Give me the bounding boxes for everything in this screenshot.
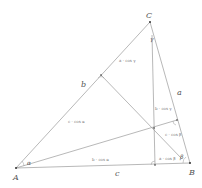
foot-ac-point (100, 74, 102, 76)
foot-ab-point (154, 164, 156, 166)
segment-a-cos-beta-label: a · cos β (159, 156, 176, 161)
angle-arc-alpha (22, 161, 24, 166)
angle-alpha-label: α (27, 159, 31, 166)
side-a-label: a (177, 88, 182, 97)
segment-a-cos-gamma-label: a · cos γ (119, 58, 136, 63)
triangle-diagram: A B C a b c α β γ a · cos γ b · cos γ c … (0, 0, 202, 188)
altitude-from-b (101, 75, 182, 159)
vertex-c-point (149, 21, 151, 23)
vertex-a-point (15, 167, 17, 169)
side-b-label: b (81, 80, 86, 89)
diagram-svg: A B C a b c α β γ a · cos γ b · cos γ c … (0, 0, 202, 188)
segment-b-cos-gamma-label: b · cos γ (155, 106, 172, 111)
orthocenter-point (153, 127, 155, 129)
vertex-a-label: A (12, 173, 19, 182)
angle-beta-label: β (179, 153, 184, 161)
side-c-label: c (115, 169, 120, 178)
angle-gamma-label: γ (150, 35, 154, 43)
vertex-b-label: B (188, 168, 195, 177)
side-ac (16, 22, 150, 168)
side-bc (150, 22, 190, 163)
right-angle-mark-bc (173, 121, 176, 125)
segment-c-cos-alpha-label: c · cos α (68, 119, 85, 124)
altitude-from-c (152, 35, 155, 165)
side-ab (16, 163, 190, 168)
vertex-c-label: C (146, 11, 152, 20)
segment-c-cos-beta-label: c · cos β (165, 132, 182, 137)
segment-b-cos-alpha-label: b · cos α (92, 157, 109, 162)
vertex-b-point (189, 162, 191, 164)
foot-bc-point (176, 119, 178, 121)
